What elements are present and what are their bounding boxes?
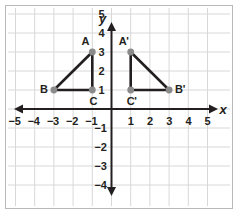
point-label-A-prime: A' xyxy=(119,36,129,47)
y-axis-label: y xyxy=(99,12,106,25)
x-axis-arrow-right xyxy=(209,105,218,114)
x-tick-label-8: 4 xyxy=(185,115,191,126)
vertex-dot-B-prime xyxy=(166,87,173,94)
y-tick-label-7: −3 xyxy=(95,161,107,172)
y-axis-arrow-up xyxy=(107,22,116,31)
axes xyxy=(14,22,218,196)
y-axis-arrow-down xyxy=(107,187,116,196)
x-axis-label: x xyxy=(220,102,227,115)
x-tick-label-0: −5 xyxy=(9,115,21,126)
point-label-C-prime: C' xyxy=(127,96,137,107)
x-tick-label-3: −2 xyxy=(66,115,78,126)
x-tick-label-5: 1 xyxy=(128,115,134,126)
y-tick-label-5: −1 xyxy=(95,123,107,134)
coordinate-plane-figure: −5−4−3−2−11234554321−1−2−3−4xyABCA'B'C' xyxy=(0,0,240,216)
y-tick-label-8: −4 xyxy=(95,180,107,191)
y-tick-label-4: 1 xyxy=(99,85,105,96)
point-label-C: C xyxy=(89,96,97,107)
plot-area: −5−4−3−2−11234554321−1−2−3−4xyABCA'B'C' xyxy=(8,8,230,206)
y-tick-label-2: 3 xyxy=(99,47,105,58)
y-tick-label-1: 4 xyxy=(99,28,105,39)
x-tick-label-1: −4 xyxy=(28,115,40,126)
x-tick-label-9: 5 xyxy=(205,115,211,126)
vertex-dot-C-prime xyxy=(127,87,134,94)
vertex-dot-A xyxy=(89,49,96,56)
x-tick-label-2: −3 xyxy=(47,115,59,126)
vertex-dot-C xyxy=(89,87,96,94)
point-label-B-prime: B' xyxy=(175,84,185,95)
point-label-B: B xyxy=(40,84,48,95)
x-tick-label-6: 2 xyxy=(147,115,153,126)
point-label-A: A xyxy=(81,36,89,47)
vertex-dot-B xyxy=(51,87,58,94)
y-tick-label-3: 2 xyxy=(99,66,105,77)
vertex-dot-A-prime xyxy=(127,49,134,56)
x-tick-label-7: 3 xyxy=(166,115,172,126)
y-tick-label-6: −2 xyxy=(95,142,107,153)
